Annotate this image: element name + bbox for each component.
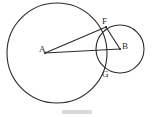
segment-ab — [45, 49, 120, 53]
large-circle — [7, 3, 107, 103]
geometry-figure: A B F G — [0, 0, 156, 117]
segment-af — [45, 27, 106, 53]
point-label-f: F — [102, 17, 107, 26]
point-label-b: B — [122, 42, 128, 51]
point-f-marker — [105, 26, 107, 28]
geometry-canvas — [0, 0, 156, 117]
caption-placeholder-bar — [62, 110, 92, 114]
point-b-marker — [119, 48, 121, 50]
segment-fb — [106, 27, 120, 49]
point-label-g: G — [102, 70, 109, 79]
point-label-a: A — [39, 45, 46, 54]
